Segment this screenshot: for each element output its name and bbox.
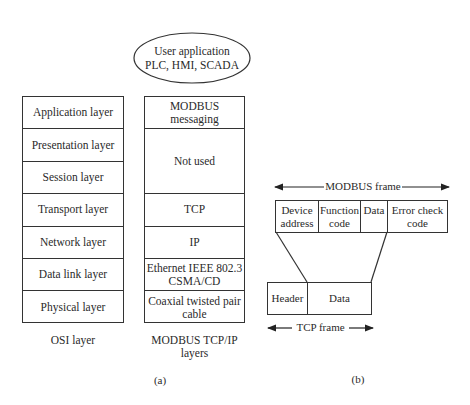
tcp-header-field: Header <box>268 283 308 314</box>
physical-cable-layer: Coaxial twisted pair cable <box>145 291 244 324</box>
modbus-frame-title: MODBUS frame <box>324 180 402 193</box>
tcp-frame-box: Header Data <box>267 282 372 315</box>
device-address-field: Device address <box>276 201 319 232</box>
modbus-data-field: Data <box>361 201 388 232</box>
tcp-data-label: Data <box>329 292 350 305</box>
modbus-frame-box: Device address Function code Data Error … <box>275 200 448 233</box>
modbus-stack-caption-line2: layers <box>134 347 255 360</box>
osi-caption: OSI layer <box>22 334 124 347</box>
user-application-line2: PLC, HMI, SCADA <box>134 58 250 72</box>
function-code-field: Function code <box>319 201 361 232</box>
not-used-layer: Not used <box>145 129 244 194</box>
ethernet-layer: Ethernet IEEE 802.3 CSMA/CD <box>145 259 244 291</box>
ip-layer: IP <box>145 227 244 259</box>
modbus-osi-diagram: User application PLC, HMI, SCADA Applica… <box>0 0 470 405</box>
error-check-field: Error check code <box>388 201 447 232</box>
ethernet-label-line2: CSMA/CD <box>169 275 221 288</box>
user-application-text: User application PLC, HMI, SCADA <box>134 44 250 72</box>
cable-label-line1: Coaxial twisted pair <box>148 295 241 308</box>
modbus-messaging-label: MODBUS messaging <box>145 100 244 126</box>
device-address-line1: Device <box>281 204 312 217</box>
osi-presentation-layer: Presentation layer <box>23 129 123 161</box>
tcp-data-field: Data <box>308 283 371 314</box>
osi-data-link-layer: Data link layer <box>23 259 123 291</box>
tcp-header-label: Header <box>272 292 304 305</box>
modbus-stack-caption-line1: MODBUS TCP/IP <box>134 334 255 347</box>
tcp-label: TCP <box>184 203 205 216</box>
encapsulation-line-left <box>276 232 307 282</box>
ip-label: IP <box>189 236 199 249</box>
osi-physical-layer: Physical layer <box>23 291 123 324</box>
device-address-line2: address <box>281 217 314 230</box>
encapsulation-line-right <box>371 232 387 282</box>
osi-application-layer: Application layer <box>23 97 123 129</box>
osi-transport-layer: Transport layer <box>23 194 123 226</box>
osi-layer-stack: Application layer Presentation layer Ses… <box>22 96 124 323</box>
cable-label-line2: cable <box>182 308 206 321</box>
osi-network-layer: Network layer <box>23 227 123 259</box>
tcp-layer: TCP <box>145 194 244 226</box>
subfigure-label-a: (a) <box>150 374 170 387</box>
error-check-line1: Error check <box>392 204 444 217</box>
user-application-line1: User application <box>134 44 250 58</box>
ethernet-label-line1: Ethernet IEEE 802.3 <box>147 262 242 275</box>
not-used-label: Not used <box>174 155 215 168</box>
error-check-line2: code <box>407 217 428 230</box>
modbus-data-label: Data <box>364 204 385 217</box>
osi-session-layer: Session layer <box>23 162 123 194</box>
tcp-frame-title: TCP frame <box>292 321 349 334</box>
function-code-line2: code <box>329 217 350 230</box>
subfigure-label-b: (b) <box>348 373 368 386</box>
modbus-stack-caption: MODBUS TCP/IP layers <box>134 334 255 360</box>
modbus-messaging-layer: MODBUS messaging <box>145 97 244 129</box>
function-code-line1: Function <box>320 204 359 217</box>
modbus-tcpip-stack: MODBUS messaging Not used TCP IP Etherne… <box>144 96 245 323</box>
